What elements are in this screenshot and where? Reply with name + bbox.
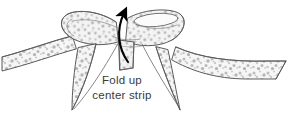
caption-line-1: Fold up [102,74,142,86]
ribbon-bow-illustration: Fold up center strip [0,0,301,118]
center-strip [119,40,134,70]
caption-line-2: center strip [92,89,151,101]
ribbon-bow-figure: Fold up center strip [0,0,301,118]
